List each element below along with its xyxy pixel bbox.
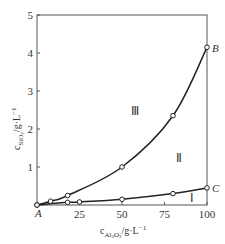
data-point-marker bbox=[205, 45, 210, 50]
y-tick-label: 5 bbox=[28, 9, 34, 21]
data-point-marker bbox=[48, 199, 53, 204]
data-point-marker bbox=[65, 200, 70, 205]
point-label-b: B bbox=[212, 42, 219, 54]
x-tick-label: 75 bbox=[159, 208, 171, 220]
curve-ab bbox=[37, 47, 207, 205]
y-axis-ticks: 12345 bbox=[28, 9, 41, 173]
data-point-marker bbox=[77, 200, 82, 205]
y-tick-label: 1 bbox=[28, 161, 34, 173]
plot-frame bbox=[37, 15, 207, 205]
y-tick-label: 4 bbox=[28, 47, 34, 59]
point-label-c: C bbox=[212, 182, 220, 194]
y-axis-label: cSiO2/g·L−1 bbox=[10, 107, 25, 150]
region-label-2: Ⅱ bbox=[176, 151, 182, 165]
y-tick-label: 2 bbox=[28, 123, 34, 135]
region-label-1: Ⅰ bbox=[190, 191, 194, 205]
region-label-3: Ⅲ bbox=[131, 104, 139, 118]
x-axis-label: cAl2O3/g·L−1 bbox=[100, 224, 147, 239]
origin-label-a: A bbox=[34, 207, 42, 219]
data-point-marker bbox=[171, 191, 176, 196]
data-point-marker bbox=[120, 197, 125, 202]
phase-diagram-chart: 12345 255075100 A B C Ⅲ Ⅱ Ⅰ cAl2O3/g·L−1… bbox=[0, 0, 225, 244]
x-tick-label: 25 bbox=[74, 208, 86, 220]
x-tick-label: 100 bbox=[199, 208, 216, 220]
data-point-marker bbox=[171, 113, 176, 118]
y-tick-label: 3 bbox=[28, 85, 34, 97]
data-point-markers bbox=[35, 45, 210, 207]
x-tick-label: 50 bbox=[117, 208, 129, 220]
data-point-marker bbox=[65, 193, 70, 198]
data-point-marker bbox=[120, 165, 125, 170]
data-point-marker bbox=[205, 186, 210, 191]
